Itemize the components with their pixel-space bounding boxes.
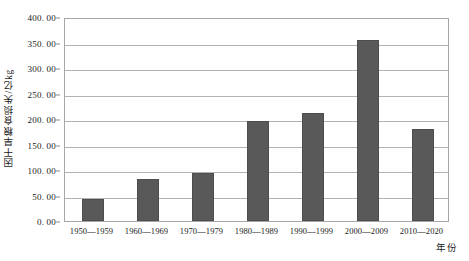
y-tick-mark [56,120,60,121]
y-tick-mark [56,145,60,146]
bar [302,113,324,221]
plot-area [64,18,449,222]
y-tick-mark [56,94,60,95]
bar [82,199,104,221]
y-tick-mark [56,43,60,44]
bar [412,129,434,221]
y-tick-label: 50. 00 [32,192,56,202]
bar [192,173,214,221]
y-tick-label: 100. 00 [28,166,56,176]
bar [137,179,159,221]
y-tick-mark [56,18,60,19]
bars-group [65,19,448,221]
x-tick-label: 1990—1999 [290,226,333,236]
y-tick-label: 150. 00 [28,141,56,151]
x-tick-label: 1980—1989 [235,226,278,236]
x-tick-label: 1960—1969 [125,226,168,236]
y-tick-label: 300. 00 [28,64,56,74]
y-tick-mark [56,171,60,172]
y-tick-mark [56,222,60,223]
x-tick-label: 1970—1979 [180,226,223,236]
y-tick-mark [56,69,60,70]
y-tick-label: 400. 00 [28,13,56,23]
y-tick-label: 0. 00 [37,217,56,227]
y-tick-label: 350. 00 [28,39,56,49]
x-axis-tick-labels: 1950—19591960—19691970—19791980—19891990… [64,226,449,240]
y-axis-tick-labels: 0. 0050. 00100. 00150. 00200. 00250. 003… [14,18,60,222]
bar [247,121,269,221]
bar-chart-figure: 因干旱粮食损失/亿kg 0. 0050. 00100. 00150. 00200… [0,0,469,261]
x-tick-label: 1950—1959 [70,226,113,236]
y-tick-label: 250. 00 [28,90,56,100]
bar [357,40,379,221]
y-tick-mark [56,196,60,197]
x-axis-title: 年份 [436,240,457,254]
y-tick-label: 200. 00 [28,115,56,125]
x-tick-label: 2000—2009 [345,226,388,236]
x-tick-label: 2010—2020 [400,226,443,236]
